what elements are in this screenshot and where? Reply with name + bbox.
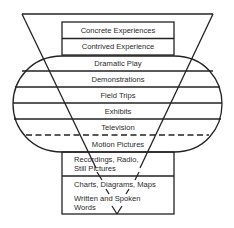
label-motion-pictures: Motion Pictures xyxy=(92,140,145,149)
cone-right-seg-3 xyxy=(117,206,122,214)
label-charts-diagrams-maps: Charts, Diagrams, Maps xyxy=(74,180,156,189)
label-field-trips: Field Trips xyxy=(100,91,135,100)
label-demonstrations: Demonstrations xyxy=(91,75,144,84)
label-written-spoken-line2: Words xyxy=(74,203,96,212)
middle-pill xyxy=(13,56,222,152)
label-recordings-line1: Recordings, Radio, xyxy=(74,155,139,164)
label-contrived-experience: Contrived Experience xyxy=(82,42,155,51)
label-television: Television xyxy=(101,123,134,132)
cone-right-edge xyxy=(140,14,213,168)
cone-of-experience-diagram: Concrete Experiences Contrived Experienc… xyxy=(0,0,234,228)
label-exhibits: Exhibits xyxy=(105,107,132,116)
cone-left-seg-3 xyxy=(112,206,117,214)
label-concrete-experiences: Concrete Experiences xyxy=(81,26,156,35)
label-dramatic-play: Dramatic Play xyxy=(94,59,141,68)
cone-left-edge xyxy=(22,14,96,168)
label-recordings-line2: Still Pictures xyxy=(74,164,116,173)
label-written-spoken-line1: Written and Spoken xyxy=(74,194,141,203)
